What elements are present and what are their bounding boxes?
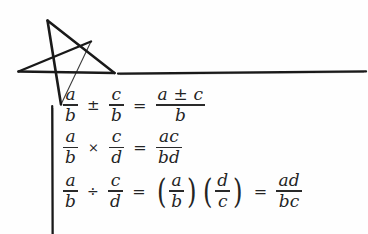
- fraction-a-plus-minus-c-over-b: a ± c b: [155, 86, 207, 124]
- multiplication-operator: ×: [79, 140, 108, 155]
- denominator: bd: [156, 148, 182, 166]
- fraction-ac-over-bd: ac bd: [155, 128, 183, 166]
- numerator: a: [63, 86, 77, 104]
- equals-sign: =: [125, 138, 155, 157]
- numerator: c: [109, 172, 123, 190]
- fraction-a-over-b-inner: a b: [168, 172, 185, 210]
- fraction-d-over-c-inner: d c: [214, 172, 231, 210]
- hand-drawn-vertical-rule: [52, 106, 53, 234]
- equation-addition-subtraction: a b ± c b = a ± c b: [62, 84, 368, 126]
- fraction-a-over-b: a b: [62, 86, 79, 124]
- equation-multiplication: a b × c d = ac bd: [62, 126, 368, 169]
- denominator: b: [109, 106, 124, 124]
- denominator: d: [108, 192, 123, 210]
- numerator: a: [63, 172, 77, 190]
- numerator: ad: [276, 172, 301, 190]
- equals-sign: =: [125, 96, 155, 115]
- numerator: d: [215, 172, 230, 190]
- equation-division: a b ÷ c d = ( a b ) (: [62, 169, 368, 213]
- denominator: bc: [277, 192, 302, 210]
- fraction-c-over-d: c d: [107, 172, 124, 210]
- denominator: d: [109, 148, 124, 166]
- parenthesized-fraction-d-over-c: ( d c ): [200, 172, 246, 210]
- denominator: b: [63, 148, 78, 166]
- division-operator: ÷: [79, 183, 107, 199]
- denominator: c: [216, 192, 230, 210]
- numerator: c: [110, 128, 124, 146]
- denominator: b: [63, 106, 78, 124]
- numerator: a: [170, 172, 184, 190]
- plus-minus-operator: ±: [79, 96, 108, 114]
- parenthesized-fraction-a-over-b: ( a b ): [154, 172, 200, 210]
- numerator: ac: [157, 128, 181, 146]
- numerator: c: [110, 86, 124, 104]
- denominator: b: [173, 106, 188, 124]
- denominator: b: [63, 192, 78, 210]
- fraction-a-over-b: a b: [62, 128, 79, 166]
- hand-drawn-horizontal-rule: [118, 71, 366, 74]
- notebook-page: a b ± c b = a ± c b a b ×: [0, 0, 368, 234]
- fraction-a-over-b: a b: [62, 172, 79, 210]
- numerator: a ± c: [156, 86, 206, 104]
- equals-sign-second: =: [246, 182, 276, 201]
- equals-sign: =: [124, 182, 154, 201]
- denominator: b: [169, 192, 184, 210]
- equation-list: a b ± c b = a ± c b a b ×: [62, 84, 368, 213]
- numerator: a: [63, 128, 77, 146]
- fraction-c-over-b: c b: [108, 86, 125, 124]
- fraction-ad-over-bc: ad bc: [275, 172, 302, 210]
- fraction-c-over-d: c d: [108, 128, 125, 166]
